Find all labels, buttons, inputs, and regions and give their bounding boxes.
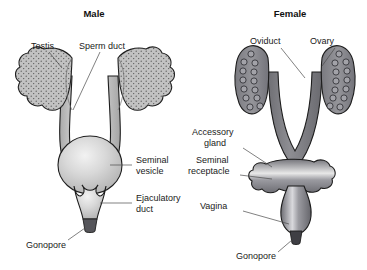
label-accessory-gland-2: gland [204,138,226,148]
label-accessory-gland-1: Accessory [192,127,234,137]
diagram-canvas: Male Testis Sperm duct Seminal vesicle E… [0,0,367,270]
label-female-gonopore: Gonopore [236,251,276,261]
label-testis: Testis [31,41,55,51]
ovary-left [235,46,269,114]
label-vagina: Vagina [200,201,227,211]
label-sperm-duct: Sperm duct [79,41,126,51]
label-seminal-receptacle-1: Seminal [196,155,229,165]
male-gonopore [83,219,97,233]
male-panel-title: Male [83,8,104,19]
female-panel-title: Female [274,8,307,19]
label-oviduct: Oviduct [250,36,281,46]
label-male-gonopore: Gonopore [26,240,66,250]
label-ejaculatory-duct-2: duct [136,204,154,214]
label-seminal-vesicle-1: Seminal [136,155,169,165]
vagina [281,186,311,234]
label-ejaculatory-duct-1: Ejaculatory [136,193,181,203]
label-seminal-receptacle-2: receptacle [188,166,230,176]
label-ovary: Ovary [310,36,335,46]
label-seminal-vesicle-2: vesicle [136,166,164,176]
ovary-right [321,46,355,114]
female-gonopore [290,231,302,245]
